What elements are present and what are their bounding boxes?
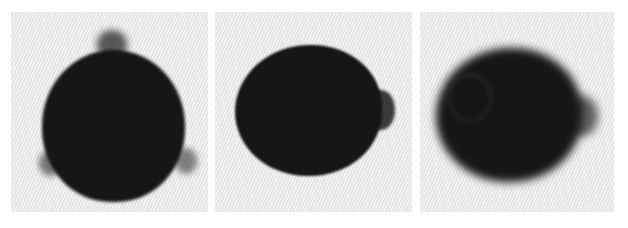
blob-main [235,45,382,176]
blob-main [42,50,185,202]
figure [0,0,628,228]
panel-3 [420,12,614,212]
cut-off-caption [30,0,350,2]
blob-inner-ring [448,74,492,122]
panel-2 [215,12,412,212]
panel-1 [11,12,208,212]
